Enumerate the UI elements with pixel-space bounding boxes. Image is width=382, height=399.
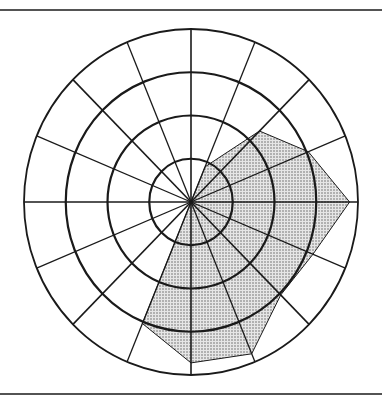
spokes: [24, 29, 358, 375]
polar-grid-svg: [0, 0, 382, 399]
polar-diagram: [0, 0, 382, 399]
